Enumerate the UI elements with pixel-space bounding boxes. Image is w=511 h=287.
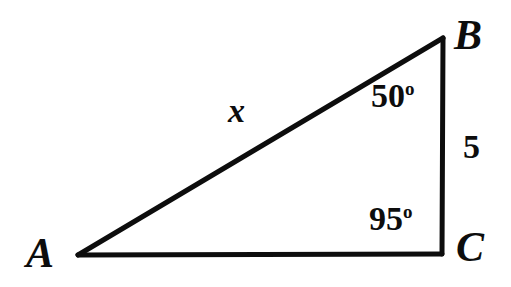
vertex-label-c: C — [456, 226, 484, 268]
vertex-label-a: A — [26, 232, 54, 274]
vertex-label-b: B — [454, 14, 482, 56]
angle-label-c: 95o — [369, 202, 413, 236]
angle-c-value: 95 — [369, 200, 403, 237]
angle-b-value: 50 — [371, 77, 405, 114]
degree-glyph-c: o — [403, 201, 413, 222]
side-label-ab: x — [228, 94, 245, 128]
triangle-outline — [0, 0, 511, 287]
side-bc-line — [442, 38, 443, 254]
angle-label-b: 50o — [371, 79, 415, 113]
triangle-figure: A B C x 5 50o 95o — [0, 0, 511, 287]
side-label-bc: 5 — [463, 130, 480, 164]
degree-glyph-b: o — [405, 78, 415, 99]
side-ac-line — [78, 254, 442, 255]
